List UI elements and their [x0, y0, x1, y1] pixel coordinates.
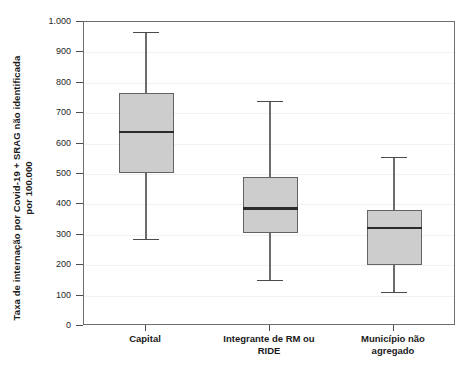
x-axis-category-label-line: Integrante de RM ou	[223, 333, 314, 345]
y-axis-tick-label: 100	[56, 290, 71, 300]
y-axis-tick-label: 900	[56, 46, 71, 56]
y-axis-tick	[76, 112, 83, 113]
x-axis-tick	[269, 325, 270, 331]
y-axis-tick	[76, 173, 83, 174]
y-axis-title: Taxa de internação por Covid-19 + SRAG n…	[0, 0, 46, 375]
median-line	[367, 227, 422, 230]
y-axis-tick-label: 200	[56, 259, 71, 269]
y-axis-tick	[76, 295, 83, 296]
box-plot-item[interactable]	[84, 22, 456, 326]
x-axis-category-label-line: agregado	[361, 345, 425, 357]
upper-whisker	[393, 157, 394, 210]
y-axis-tick-label: 500	[56, 168, 71, 178]
x-axis-category-label-line: Município não	[361, 333, 425, 345]
y-axis-tick-label: 300	[56, 229, 71, 239]
x-axis-category-label-line: Capital	[129, 333, 161, 345]
box-iqr[interactable]	[367, 210, 422, 266]
y-axis-tick	[76, 264, 83, 265]
y-axis-tick	[76, 203, 83, 204]
boxplot-figure: Taxa de internação por Covid-19 + SRAG n…	[0, 0, 474, 375]
x-axis-category-label: Capital	[129, 333, 161, 345]
y-axis-tick-label: 400	[56, 198, 71, 208]
lower-whisker-cap	[381, 292, 407, 293]
x-axis-category-label: Município nãoagregado	[361, 333, 425, 356]
y-axis-tick-label: 1.000	[48, 16, 71, 26]
y-axis-tick-label: 600	[56, 138, 71, 148]
y-axis-title-line2: por 100.000	[23, 55, 35, 320]
lower-whisker	[393, 265, 394, 292]
plot-area	[83, 21, 455, 325]
x-axis-tick	[145, 325, 146, 331]
x-axis-category-label: Integrante de RM ouRIDE	[223, 333, 314, 356]
y-axis-title-line1: Taxa de internação por Covid-19 + SRAG n…	[11, 55, 23, 320]
y-axis-tick	[76, 325, 83, 326]
y-axis-tick	[76, 51, 83, 52]
x-axis-category-label-line: RIDE	[223, 345, 314, 357]
y-axis-tick	[76, 21, 83, 22]
y-axis-tick	[76, 143, 83, 144]
upper-whisker-cap	[381, 157, 407, 158]
y-axis-tick	[76, 82, 83, 83]
y-axis-tick-label: 700	[56, 107, 71, 117]
y-axis-tick-label: 0	[66, 320, 71, 330]
y-axis-tick-label: 800	[56, 77, 71, 87]
y-axis-tick	[76, 234, 83, 235]
x-axis-tick	[393, 325, 394, 331]
